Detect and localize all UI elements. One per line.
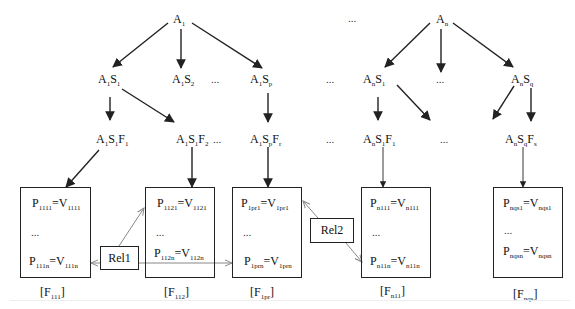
node-ans1f1: AnS1F1	[363, 132, 396, 146]
ellipsis: ...	[348, 12, 356, 24]
ellipsis: ...	[372, 226, 380, 238]
frame-caption-f1pr: [F1pr]	[250, 285, 274, 300]
frame-box-f112: P1121=V1121 ... P112n=V112n	[145, 187, 215, 278]
frame-box-fnqs: Pnqs1=Vnqs1 ... Pnqsn=Vnqsn	[493, 187, 563, 278]
ellipsis: ...	[440, 133, 448, 145]
node-a1s1f1: A1S1F1	[96, 132, 129, 146]
property-last: Pnqsn=Vnqsn	[503, 244, 552, 259]
page-edge-divider	[10, 300, 570, 301]
relation-box-rel2: Rel2	[310, 218, 354, 243]
node-ansqfs: AnSqFs	[505, 132, 537, 146]
frame-box-f1pr: P1pr1=V1pr1 ... P1prn=V1prn	[232, 187, 302, 278]
property-last: P1prn=V1prn	[244, 254, 292, 269]
ellipsis: ...	[504, 224, 512, 236]
node-an: An	[436, 12, 448, 26]
frame-caption-f112: [F112]	[164, 285, 189, 300]
property-first: P1111=V1111	[32, 196, 81, 211]
node-ans1: AnS1	[363, 72, 385, 86]
node-a1spfr: A1SpFr	[250, 132, 281, 146]
ellipsis: ...	[326, 73, 334, 85]
frame-box-fn11: Pn111=Vn111 ... Pn11n=Vn11n	[361, 187, 431, 278]
node-a1sp: A1Sp	[250, 72, 272, 86]
property-first: Pn111=Vn111	[370, 196, 419, 211]
property-first: P1121=V1121	[157, 196, 207, 211]
ellipsis: ...	[436, 73, 444, 85]
frame-caption-fn11: [Fn11]	[380, 284, 405, 299]
frame-caption-f111: [F111]	[40, 285, 65, 300]
property-last: P111n=V111n	[29, 254, 78, 269]
ellipsis: ...	[31, 226, 39, 238]
node-a1s2: A1S2	[172, 72, 194, 86]
property-first: Pnqs1=Vnqs1	[503, 196, 552, 211]
ellipsis: ...	[156, 226, 164, 238]
property-last: P112n=V112n	[154, 246, 204, 261]
ellipsis: ...	[211, 73, 219, 85]
ellipsis: ...	[326, 133, 334, 145]
property-first: P1pr1=V1pr1	[241, 196, 289, 211]
frame-box-f111: P1111=V1111 ... P111n=V111n	[20, 187, 91, 278]
node-a1s1: A1S1	[98, 72, 120, 86]
node-a1: A1	[173, 12, 185, 26]
property-last: Pn11n=Vn11n	[370, 254, 420, 269]
relation-box-rel1: Rel1	[100, 246, 139, 270]
node-a1s1f2: A1S1F2	[176, 132, 209, 146]
ellipsis: ...	[213, 133, 221, 145]
ellipsis: ...	[243, 226, 251, 238]
node-ansq: AnSq	[511, 72, 533, 86]
